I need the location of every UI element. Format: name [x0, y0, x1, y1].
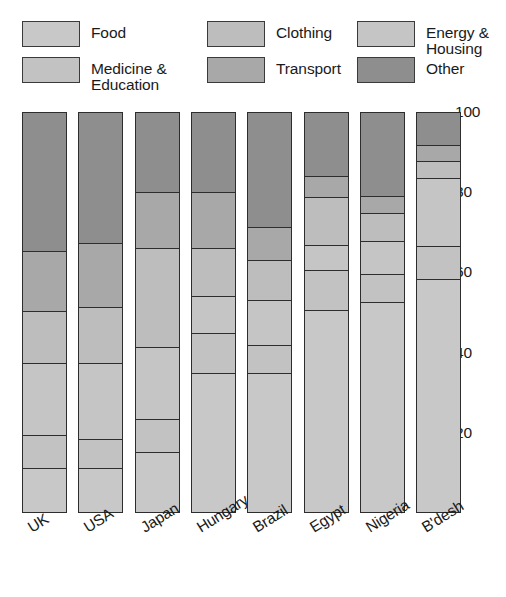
bar-segment[interactable]: [361, 197, 404, 214]
bar-segment[interactable]: [192, 334, 235, 374]
bar-segment[interactable]: [305, 271, 348, 311]
bar-uk[interactable]: [22, 112, 67, 513]
bar-bdesh[interactable]: [416, 112, 461, 513]
bar-segment[interactable]: [361, 242, 404, 275]
bar-segment[interactable]: [305, 177, 348, 198]
bar-segment[interactable]: [79, 244, 122, 308]
bar-segment[interactable]: [417, 146, 460, 163]
bar-segment[interactable]: [248, 261, 291, 301]
x-axis-label: UK: [25, 511, 51, 535]
bar-japan[interactable]: [135, 112, 180, 513]
bar-segment[interactable]: [192, 113, 235, 193]
bar-segment[interactable]: [192, 249, 235, 297]
bar-segment[interactable]: [417, 113, 460, 146]
bar-segment[interactable]: [417, 179, 460, 247]
bar-brazil[interactable]: [247, 112, 292, 513]
bar-segment[interactable]: [248, 228, 291, 261]
bar-segment[interactable]: [23, 364, 66, 436]
bar-segment[interactable]: [23, 312, 66, 364]
bar-segment[interactable]: [417, 162, 460, 179]
bar-hungary[interactable]: [191, 112, 236, 513]
bar-nigeria[interactable]: [360, 112, 405, 513]
bar-segment[interactable]: [136, 348, 179, 420]
bar-segment[interactable]: [361, 214, 404, 243]
bar-segment[interactable]: [361, 275, 404, 304]
bar-segment[interactable]: [305, 246, 348, 271]
bar-segment[interactable]: [79, 364, 122, 440]
bar-segment[interactable]: [417, 247, 460, 280]
bar-egypt[interactable]: [304, 112, 349, 513]
bar-segment[interactable]: [248, 374, 291, 512]
bar-segment[interactable]: [79, 440, 122, 469]
bar-segment[interactable]: [23, 469, 66, 512]
bar-usa[interactable]: [78, 112, 123, 513]
bar-segment[interactable]: [136, 113, 179, 193]
bar-segment[interactable]: [23, 436, 66, 469]
bar-segment[interactable]: [192, 297, 235, 333]
bar-segment[interactable]: [361, 303, 404, 512]
bar-segment[interactable]: [305, 113, 348, 177]
bar-segment[interactable]: [248, 346, 291, 375]
bar-segment[interactable]: [417, 280, 460, 512]
bar-segment[interactable]: [305, 198, 348, 246]
bar-segment[interactable]: [79, 308, 122, 364]
bar-segment[interactable]: [248, 301, 291, 345]
bar-segment[interactable]: [248, 113, 291, 228]
bar-segment[interactable]: [136, 249, 179, 349]
bar-segment[interactable]: [136, 420, 179, 453]
bar-segment[interactable]: [23, 252, 66, 312]
bar-segment[interactable]: [23, 113, 66, 252]
bar-segment[interactable]: [192, 193, 235, 249]
stacked-bar-chart: 20406080100UKUSAJapanHungaryBrazilEgyptN…: [0, 0, 506, 597]
bar-segment[interactable]: [361, 113, 404, 197]
bar-segment[interactable]: [79, 469, 122, 512]
bar-segment[interactable]: [79, 113, 122, 244]
bar-segment[interactable]: [136, 193, 179, 249]
bar-segment[interactable]: [192, 374, 235, 512]
bar-segment[interactable]: [305, 311, 348, 512]
